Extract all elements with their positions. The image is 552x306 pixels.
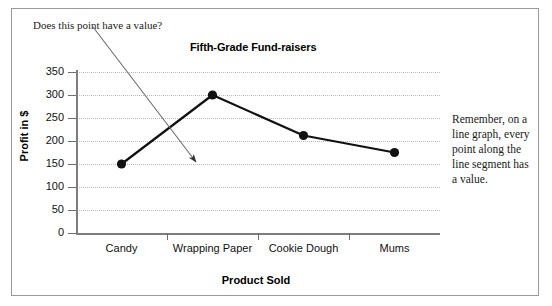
figure-page: Does this point have a value? Remember, … bbox=[0, 0, 552, 306]
callout-arrow-icon bbox=[0, 0, 552, 306]
